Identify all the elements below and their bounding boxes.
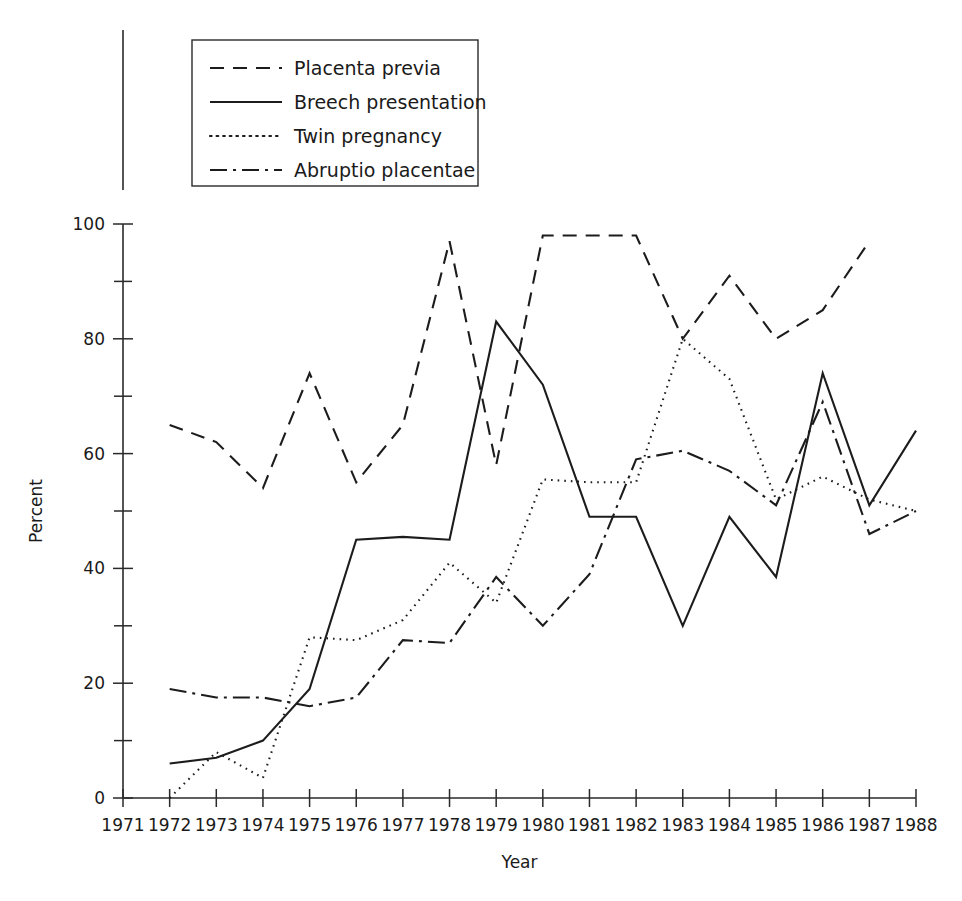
legend-item-label: Abruptio placentae: [294, 159, 475, 181]
figure-container: Placenta previaBreech presentationTwin p…: [0, 0, 962, 901]
x-axis-tick-label: 1985: [754, 815, 797, 835]
x-axis-tick-label: 1988: [894, 815, 937, 835]
y-axis-tick-label: 80: [83, 329, 105, 349]
x-axis-title: Year: [501, 852, 538, 872]
x-axis-tick-label: 1980: [521, 815, 564, 835]
x-axis-tick-label: 1972: [148, 815, 191, 835]
y-axis-tick-label: 20: [83, 673, 105, 693]
x-axis-tick-label: 1986: [801, 815, 844, 835]
x-axis-tick-label: 1971: [101, 815, 144, 835]
y-axis-tick-label: 60: [83, 444, 105, 464]
legend-item[interactable]: Abruptio placentae: [210, 159, 475, 181]
x-axis-tick-label: 1978: [428, 815, 471, 835]
series-lines: [170, 235, 916, 798]
x-axis-tick-label: 1975: [288, 815, 331, 835]
x-axis-tick-label: 1974: [241, 815, 284, 835]
series-line-abruptio-placentae: [170, 402, 916, 706]
x-axis-tick-label: 1979: [475, 815, 518, 835]
x-axis-tick-label: 1976: [335, 815, 378, 835]
x-axis-tick-label: 1981: [568, 815, 611, 835]
x-axis-tick-label: 1977: [381, 815, 424, 835]
legend-item[interactable]: Breech presentation: [210, 91, 487, 113]
legend-item[interactable]: Placenta previa: [210, 57, 441, 79]
series-line-twin-pregnancy: [170, 339, 916, 798]
y-axis-tick-label: 0: [94, 788, 105, 808]
y-axis-title: Percent: [26, 479, 46, 543]
legend-item-label: Twin pregnancy: [293, 125, 442, 147]
legend-item-label: Placenta previa: [294, 57, 441, 79]
x-axis-tick-label: 1987: [848, 815, 891, 835]
y-axis-tick-label: 40: [83, 558, 105, 578]
legend: Placenta previaBreech presentationTwin p…: [192, 40, 487, 186]
x-axis-tick-label: 1982: [614, 815, 657, 835]
legend-item[interactable]: Twin pregnancy: [210, 125, 442, 147]
axes: [113, 30, 916, 807]
y-axis-tick-label: 100: [73, 214, 105, 234]
x-axis-tick-label: 1984: [708, 815, 751, 835]
legend-item-label: Breech presentation: [294, 91, 487, 113]
axis-labels: 0204060801001971197219731974197519761977…: [26, 214, 938, 872]
x-axis-tick-label: 1973: [195, 815, 238, 835]
x-axis-tick-label: 1983: [661, 815, 704, 835]
series-line-placenta-previa: [170, 235, 870, 488]
series-line-breech-presentation: [170, 322, 916, 764]
line-chart: Placenta previaBreech presentationTwin p…: [0, 0, 962, 901]
